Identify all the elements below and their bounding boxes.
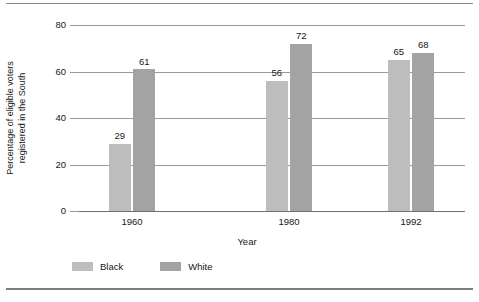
y-axis-tick-label: 0 (61, 206, 66, 216)
x-axis-tick-label-1992: 1992 (400, 217, 421, 227)
y-axis-tick-label: 20 (55, 160, 66, 170)
legend-item-black: Black (72, 262, 123, 272)
figure-bottom-rule (6, 288, 473, 290)
y-axis-tick-label: 40 (55, 113, 66, 123)
x-axis-title: Year (237, 237, 256, 247)
y-axis-tick-mark (70, 118, 79, 119)
y-axis-title-line-1: Percentage of eligible voters (5, 18, 17, 218)
bar-value-label: 72 (296, 31, 307, 41)
bar-value-label: 61 (139, 57, 150, 67)
bar-white-1992: 68 (412, 53, 434, 211)
y-axis-tick-label: 60 (55, 67, 66, 77)
chart-legend: BlackWhite (72, 262, 213, 272)
legend-item-white: White (160, 262, 212, 272)
bar-black-1992: 65 (388, 60, 410, 211)
x-axis-baseline (79, 211, 465, 212)
bar-value-label: 56 (271, 68, 282, 78)
y-axis-tick-mark (70, 165, 79, 166)
chart-figure: Percentage of eligible voters registered… (0, 0, 479, 302)
legend-swatch-black (72, 262, 93, 271)
bar-black-1960: 29 (109, 144, 131, 211)
bar-white-1960: 61 (133, 69, 155, 211)
y-axis-tick-mark (70, 211, 79, 212)
plot-area: 020406080 296156726568 (79, 25, 465, 211)
bar-value-label: 65 (393, 47, 404, 57)
y-axis-title-line-2: registered in the South (16, 18, 28, 218)
x-axis-tick-label-1960: 1960 (121, 217, 142, 227)
y-axis-title: Percentage of eligible voters registered… (5, 18, 28, 218)
bar-value-label: 29 (114, 131, 125, 141)
gridline (79, 25, 465, 26)
legend-label-white: White (188, 262, 212, 272)
bar-white-1980: 72 (290, 44, 312, 211)
x-axis-tick-label-1980: 1980 (278, 217, 299, 227)
y-axis-tick-mark (70, 72, 79, 73)
y-axis-tick-mark (70, 25, 79, 26)
y-axis-tick-label: 80 (55, 20, 66, 30)
legend-label-black: Black (100, 262, 123, 272)
bar-value-label: 68 (418, 40, 429, 50)
bar-black-1980: 56 (266, 81, 288, 211)
figure-top-rule (6, 3, 473, 4)
legend-swatch-white (160, 262, 181, 271)
